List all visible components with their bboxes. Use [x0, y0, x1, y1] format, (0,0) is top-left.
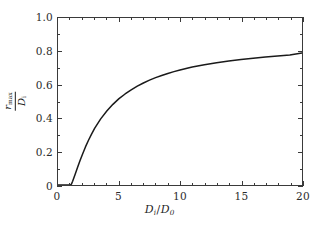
y-tick-minor — [57, 34, 60, 35]
x-tick-minor — [106, 183, 107, 186]
x-tick-major — [242, 181, 243, 186]
x-tick-minor-top — [217, 17, 218, 20]
x-tick-minor-top — [254, 17, 255, 20]
y-tick-label: 0.8 — [36, 45, 53, 57]
y-tick-label: 0.4 — [36, 112, 53, 124]
y-tick-minor — [57, 102, 60, 103]
x-tick-minor-top — [229, 17, 230, 20]
x-tick-minor-top — [82, 17, 83, 20]
curve-svg — [58, 18, 302, 185]
x-tick-minor-top — [106, 17, 107, 20]
y-tick-major — [57, 152, 62, 153]
x-tick-minor-top — [168, 17, 169, 20]
x-tick-minor-top — [143, 17, 144, 20]
x-tick-minor — [217, 183, 218, 186]
y-tick-label: 1.0 — [36, 11, 53, 23]
x-tick-minor — [205, 183, 206, 186]
plot-frame — [57, 17, 303, 186]
x-label-denominator: D — [161, 203, 170, 216]
y-tick-major — [57, 51, 62, 52]
x-tick-major-top — [303, 17, 304, 22]
x-tick-minor-top — [131, 17, 132, 20]
x-tick-major-top — [242, 17, 243, 22]
y-label-denominator: D — [16, 98, 27, 106]
x-tick-label: 0 — [54, 190, 61, 202]
y-label-denominator-subscript: i — [20, 96, 27, 98]
x-tick-minor — [82, 183, 83, 186]
y-tick-major — [57, 118, 62, 119]
x-tick-minor — [143, 183, 144, 186]
x-tick-major-top — [180, 17, 181, 22]
y-label-numerator-subscript: max — [6, 92, 13, 105]
x-tick-major-top — [57, 17, 58, 22]
x-tick-minor-top — [192, 17, 193, 20]
data-curve-line — [58, 53, 302, 185]
x-tick-label: 10 — [173, 190, 187, 202]
y-tick-minor — [57, 68, 60, 69]
x-tick-minor — [192, 183, 193, 186]
y-tick-major-right — [298, 186, 303, 187]
x-tick-major — [57, 181, 58, 186]
y-tick-major-right — [298, 51, 303, 52]
x-tick-minor — [254, 183, 255, 186]
x-label-numerator: D — [145, 203, 154, 216]
y-tick-major-right — [298, 118, 303, 119]
x-tick-major-top — [119, 17, 120, 22]
x-tick-minor-top — [69, 17, 70, 20]
x-tick-major — [119, 181, 120, 186]
y-label-numerator: r — [2, 105, 13, 110]
y-axis-label-wrapper: rmax Di — [3, 91, 29, 110]
x-tick-minor-top — [94, 17, 95, 20]
x-tick-minor-top — [205, 17, 206, 20]
y-tick-label: 0 — [46, 180, 53, 192]
x-tick-minor — [69, 183, 70, 186]
y-tick-major — [57, 85, 62, 86]
x-tick-minor — [168, 183, 169, 186]
y-tick-minor-right — [300, 68, 303, 69]
y-tick-minor — [57, 135, 60, 136]
y-tick-minor-right — [300, 169, 303, 170]
x-tick-major — [303, 181, 304, 186]
x-tick-minor — [278, 183, 279, 186]
y-tick-minor-right — [300, 135, 303, 136]
x-tick-minor-top — [291, 17, 292, 20]
x-tick-minor — [131, 183, 132, 186]
x-tick-minor-top — [155, 17, 156, 20]
x-tick-minor — [266, 183, 267, 186]
y-tick-minor-right — [300, 34, 303, 35]
x-tick-minor-top — [266, 17, 267, 20]
x-tick-minor — [155, 183, 156, 186]
x-tick-minor — [291, 183, 292, 186]
x-tick-major — [180, 181, 181, 186]
y-tick-label: 0.2 — [36, 146, 53, 158]
y-tick-major-right — [298, 152, 303, 153]
x-tick-minor — [229, 183, 230, 186]
x-tick-label: 15 — [235, 190, 249, 202]
x-tick-label: 20 — [296, 190, 310, 202]
x-tick-minor-top — [278, 17, 279, 20]
x-axis-label: Di/D0 — [0, 203, 319, 217]
y-tick-minor-right — [300, 102, 303, 103]
x-tick-label: 5 — [115, 190, 122, 202]
y-tick-major-right — [298, 85, 303, 86]
figure-canvas: 00.20.40.60.81.005101520 Di/D0 rmax Di — [0, 0, 319, 230]
x-tick-minor — [94, 183, 95, 186]
y-tick-minor — [57, 169, 60, 170]
y-tick-major — [57, 186, 62, 187]
y-tick-label: 0.6 — [36, 79, 53, 91]
y-axis-label: rmax Di — [3, 91, 28, 110]
x-label-denominator-subscript: 0 — [170, 208, 175, 217]
